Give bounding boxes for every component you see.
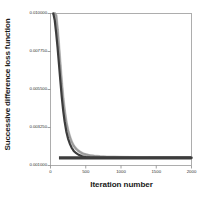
band-marker: [71, 141, 73, 143]
band-marker: [57, 29, 59, 31]
x-axis-ticks: [51, 166, 192, 169]
y-axis-ticks: [48, 14, 51, 166]
chart-figure: Successive difference loss function 0.00…: [0, 0, 206, 198]
band-marker: [55, 15, 57, 17]
band-marker: [89, 155, 91, 157]
band-marker: [75, 148, 77, 150]
plot-area: [0, 0, 206, 198]
band-marker: [67, 130, 69, 132]
x-axis-title: Iteration number: [50, 180, 193, 189]
band-marker: [81, 152, 83, 154]
band-marker: [73, 145, 75, 147]
band-marker: [85, 154, 87, 156]
band-marker: [69, 136, 71, 138]
band-marker: [78, 150, 80, 152]
